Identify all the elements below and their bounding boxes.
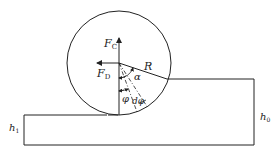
radius-label: R (143, 60, 152, 73)
phi-label: φ (122, 93, 129, 104)
rolling-diagram: FC FD R α φ dφ h0 h1 (0, 0, 274, 152)
h0-label: h0 (260, 111, 270, 123)
radius-line (119, 63, 167, 79)
h1-label: h1 (9, 122, 19, 134)
force-c-label: FC (103, 37, 117, 51)
alpha-label: α (134, 71, 141, 82)
dphi-label: dφ (132, 96, 145, 106)
force-d-label: FD (96, 67, 111, 81)
workpiece-outline (24, 79, 254, 145)
